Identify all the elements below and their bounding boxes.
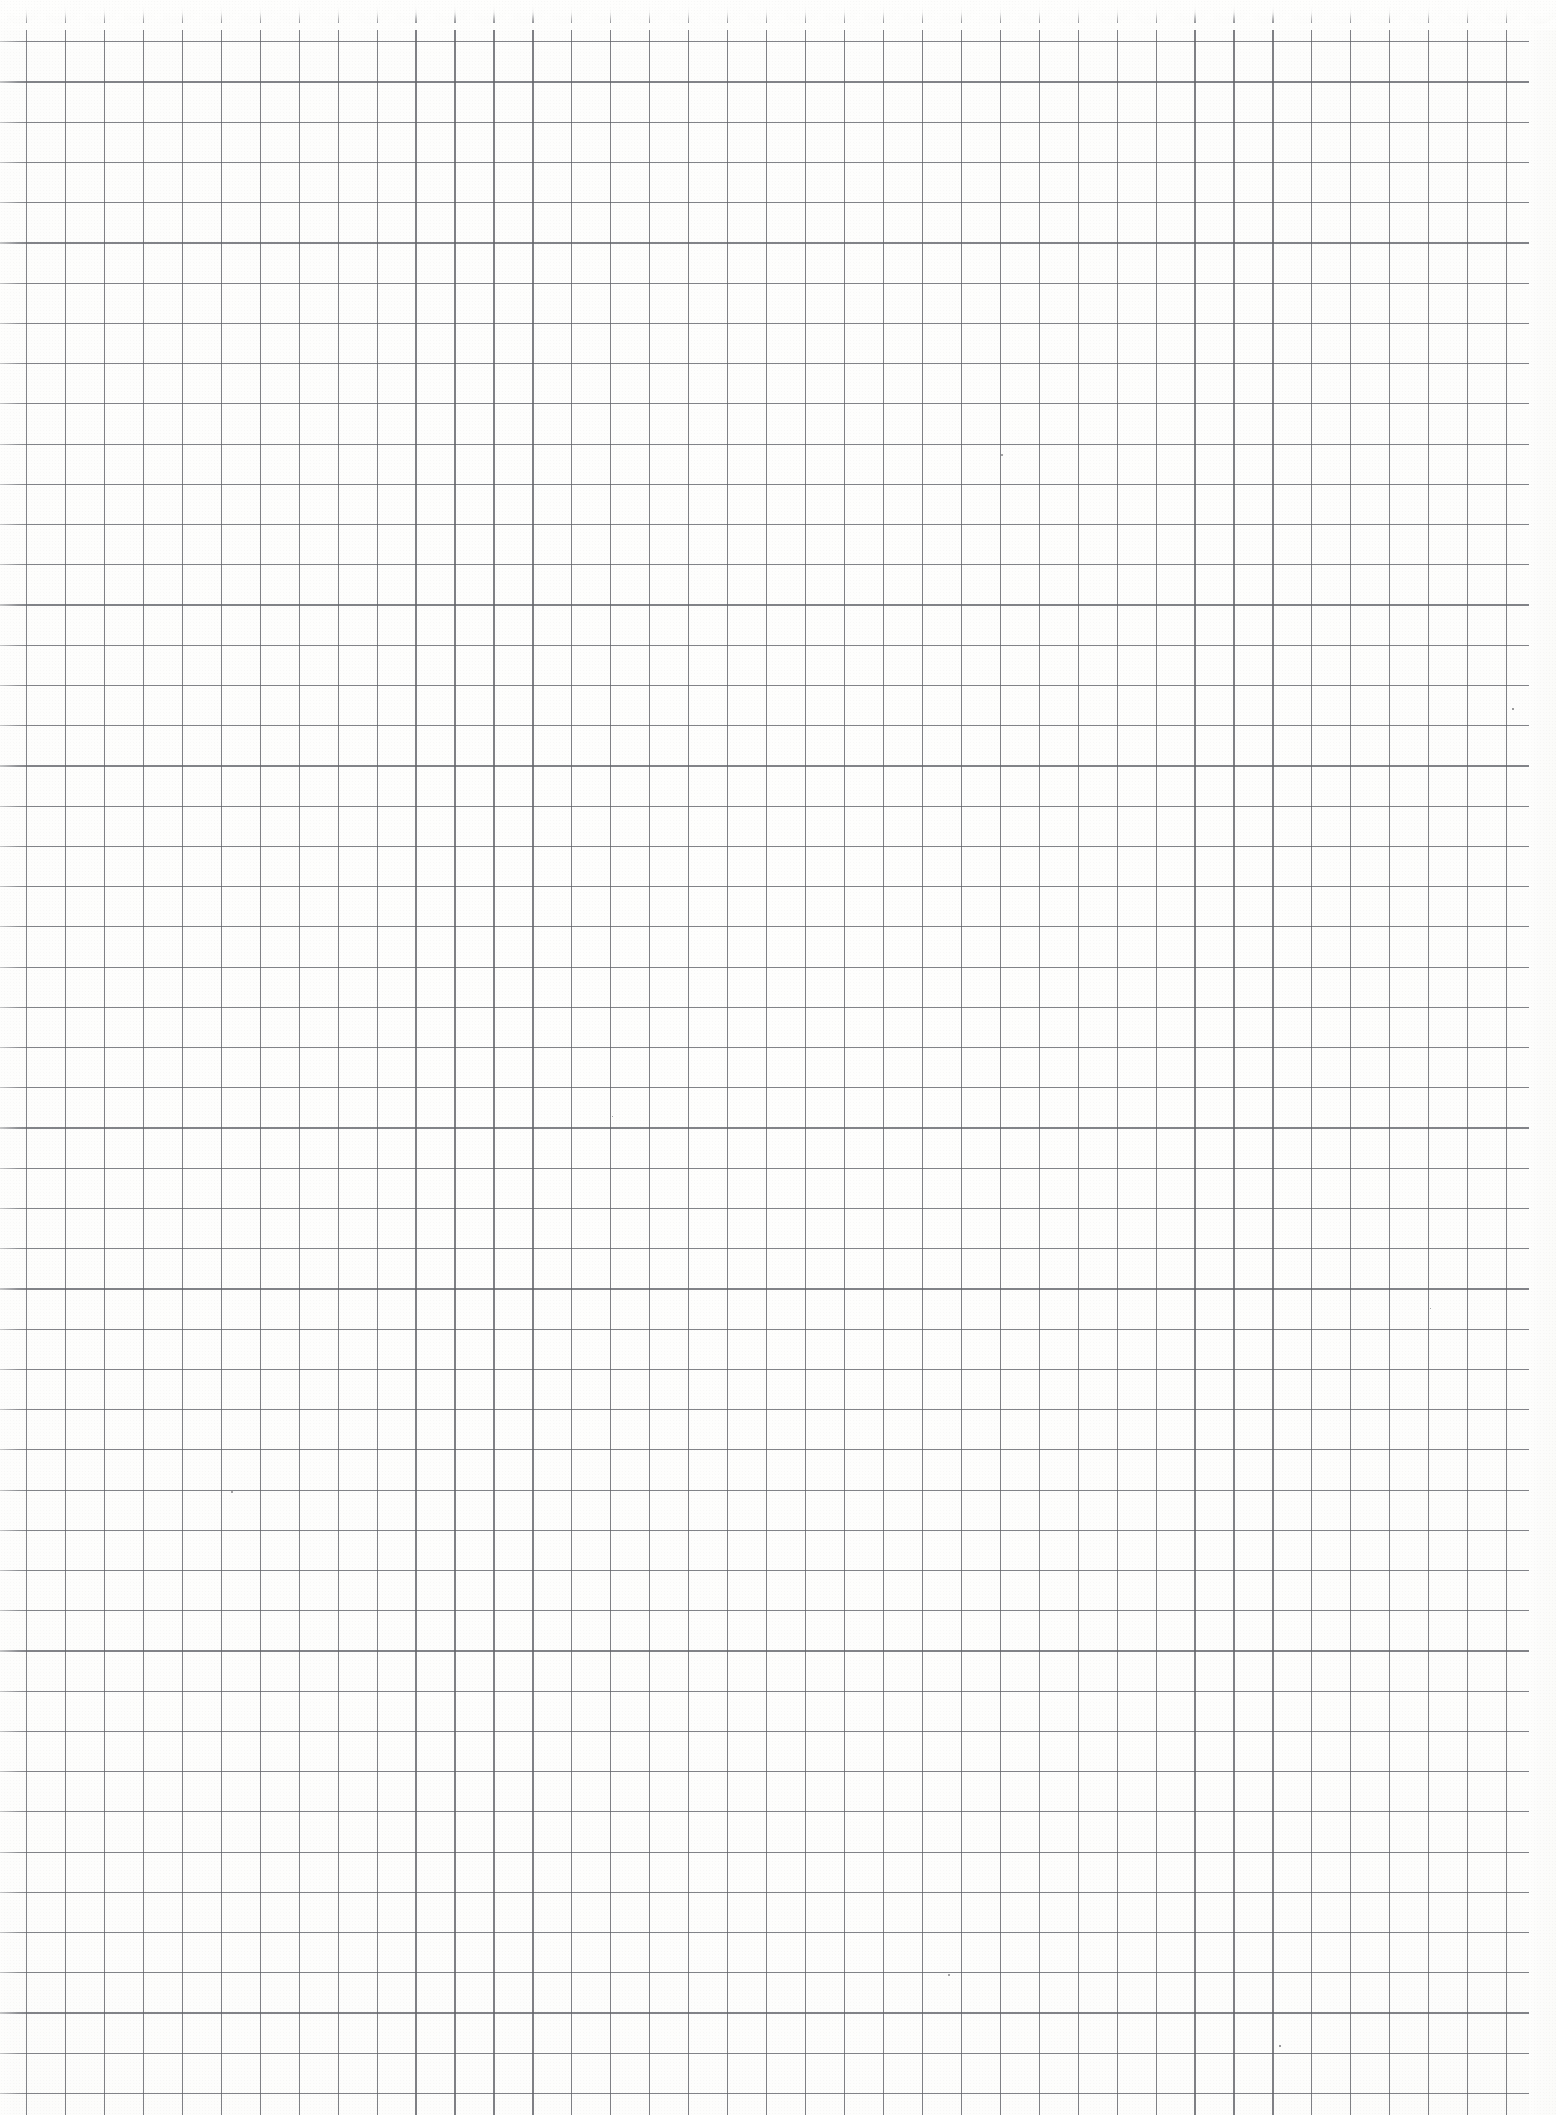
scan-speck [1001, 454, 1003, 456]
paper-warm-tint [0, 0, 1556, 2115]
scan-speck [1279, 2045, 1281, 2047]
graph-paper-sheet: Blank Graph Paper Sheet [0, 0, 1556, 2115]
scan-speck [1512, 708, 1514, 710]
